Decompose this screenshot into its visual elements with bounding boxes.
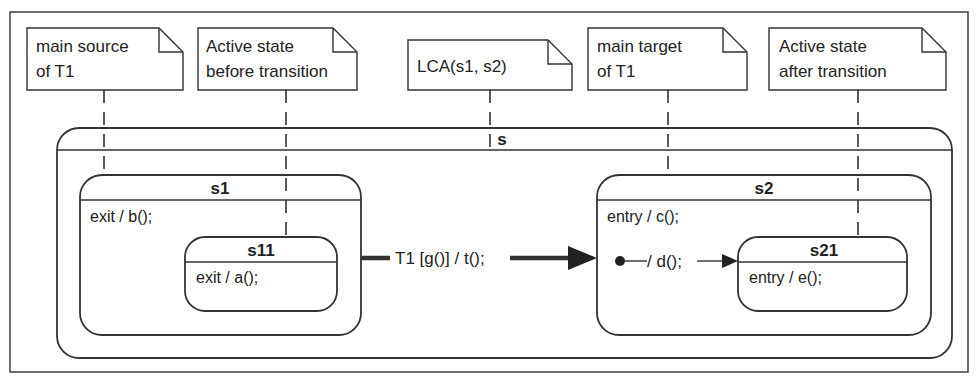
note-text-line2: of T1 [36, 62, 74, 81]
note-text-line1: main target [597, 37, 682, 56]
note-text-line1: main source [36, 37, 129, 56]
state-s21[interactable]: s21 entry / e(); [738, 237, 907, 311]
note-text-line1: Active state [779, 37, 867, 56]
state-title: s2 [755, 179, 774, 198]
note-main-source[interactable]: main source of T1 [27, 28, 183, 90]
note-text-line1: LCA(s1, s2) [417, 57, 507, 76]
state-action: entry / c(); [607, 208, 679, 225]
arrowhead-icon [722, 254, 738, 268]
note-text-line1: Active state [206, 37, 294, 56]
note-text-line2: of T1 [597, 62, 635, 81]
initial-pseudostate-icon [615, 256, 625, 266]
note-lca[interactable]: LCA(s1, s2) [408, 40, 572, 90]
initial-transition[interactable]: / d(); [615, 252, 738, 271]
note-main-target[interactable]: main target of T1 [588, 28, 747, 90]
note-text-line2: before transition [206, 62, 328, 81]
state-title: s [497, 130, 506, 149]
transition-label: T1 [g()] / t(); [395, 249, 485, 268]
note-active-before[interactable]: Active state before transition [198, 28, 357, 90]
state-diagram: main source of T1 Active state before tr… [0, 0, 980, 380]
state-action: exit / a(); [196, 269, 258, 286]
state-title: s11 [247, 241, 274, 260]
note-active-after[interactable]: Active state after transition [769, 28, 946, 90]
state-action: exit / b(); [90, 208, 152, 225]
arrowhead-icon [568, 246, 597, 270]
note-text-line2: after transition [779, 62, 887, 81]
state-action: entry / e(); [749, 269, 822, 286]
state-s11[interactable]: s11 exit / a(); [185, 237, 337, 311]
transition-t1[interactable]: T1 [g()] / t(); [361, 246, 597, 270]
state-title: s21 [810, 241, 838, 260]
transition-label: / d(); [647, 252, 682, 271]
state-title: s1 [211, 179, 230, 198]
